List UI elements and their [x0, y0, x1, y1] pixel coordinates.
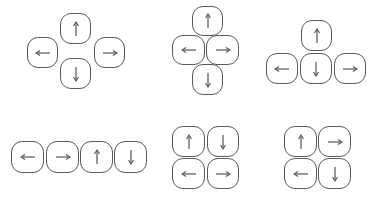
arrow-down-icon	[311, 61, 321, 77]
arrow-right-icon	[327, 137, 343, 147]
arrow-left-icon	[274, 64, 290, 74]
arrow-down-icon	[126, 149, 136, 165]
arrow-right-icon	[102, 48, 118, 58]
key-up	[284, 126, 317, 157]
arrow-up-icon	[203, 13, 213, 29]
key-right	[206, 35, 239, 65]
key-down	[192, 64, 223, 95]
key-up	[172, 126, 205, 157]
key-left	[172, 35, 205, 65]
arrow-left-icon	[181, 169, 197, 179]
arrow-down-icon	[203, 72, 213, 88]
arrow-up-icon	[184, 134, 194, 150]
arrow-up-icon	[312, 28, 322, 44]
key-left	[266, 53, 298, 84]
arrow-right-icon	[215, 45, 231, 55]
arrow-down-icon	[218, 134, 228, 150]
key-right	[318, 126, 351, 157]
key-left	[172, 158, 205, 189]
arrow-left-icon	[35, 48, 51, 58]
arrow-up-icon	[296, 134, 306, 150]
key-left	[11, 141, 44, 173]
key-right	[94, 37, 125, 68]
arrow-down-icon	[330, 166, 340, 182]
arrow-up-icon	[92, 149, 102, 165]
key-up	[301, 20, 332, 51]
key-left	[27, 37, 58, 68]
arrow-right-icon	[55, 152, 71, 162]
key-right	[46, 141, 79, 173]
key-down	[207, 126, 239, 157]
arrow-down-icon	[71, 66, 81, 82]
key-down	[114, 141, 147, 173]
cut-off-caption	[140, 198, 210, 203]
key-right	[207, 158, 239, 189]
key-up	[60, 13, 91, 44]
key-down	[300, 53, 332, 84]
key-down	[318, 158, 351, 189]
arrow-left-icon	[20, 152, 36, 162]
key-right	[334, 53, 366, 84]
key-up	[192, 6, 223, 36]
arrow-right-icon	[342, 64, 358, 74]
arrow-up-icon	[71, 21, 81, 37]
arrow-left-icon	[293, 169, 309, 179]
key-up	[80, 141, 113, 173]
key-down	[60, 58, 91, 89]
arrow-right-icon	[215, 169, 231, 179]
key-left	[284, 158, 317, 189]
arrow-left-icon	[181, 45, 197, 55]
